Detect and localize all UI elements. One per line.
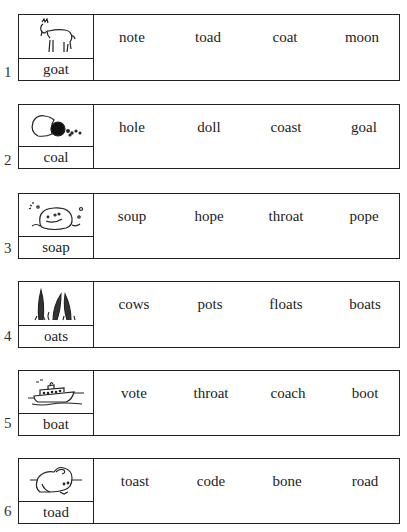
row-number: 1 bbox=[4, 64, 12, 81]
row-number: 2 bbox=[4, 152, 12, 169]
word-option[interactable]: soup bbox=[118, 208, 146, 225]
boat-icon bbox=[19, 371, 93, 414]
row-number: 6 bbox=[4, 503, 12, 520]
oats-icon bbox=[19, 282, 93, 325]
word-option[interactable]: boats bbox=[349, 296, 381, 313]
word-option[interactable]: code bbox=[197, 473, 225, 490]
picture-label: soap bbox=[19, 236, 93, 258]
row-number: 3 bbox=[4, 240, 12, 257]
picture-label: boat bbox=[19, 413, 93, 435]
word-option[interactable]: pots bbox=[197, 296, 222, 313]
word-option[interactable]: pope bbox=[349, 208, 378, 225]
word-option[interactable]: toast bbox=[121, 473, 149, 490]
picture-cell: toad bbox=[19, 459, 94, 523]
coal-sack-icon bbox=[19, 105, 93, 147]
word-option[interactable]: bone bbox=[272, 473, 301, 490]
word-option[interactable]: toad bbox=[195, 29, 221, 46]
picture-cell: oats bbox=[19, 282, 94, 347]
goat-icon bbox=[19, 15, 93, 58]
word-option[interactable]: road bbox=[352, 473, 379, 490]
word-option[interactable]: boot bbox=[352, 385, 379, 402]
picture-label: goat bbox=[19, 58, 93, 80]
word-option[interactable]: coach bbox=[271, 385, 306, 402]
picture-label: toad bbox=[19, 501, 93, 523]
row-number: 5 bbox=[4, 415, 12, 432]
word-option[interactable]: cows bbox=[119, 296, 150, 313]
word-option[interactable]: vote bbox=[121, 385, 147, 402]
word-option[interactable]: moon bbox=[345, 29, 379, 46]
picture-label: coal bbox=[19, 146, 93, 168]
picture-cell: coal bbox=[19, 105, 94, 168]
soap-icon bbox=[19, 194, 93, 237]
picture-cell: soap bbox=[19, 194, 94, 258]
row-number: 4 bbox=[4, 328, 12, 345]
word-option[interactable]: coat bbox=[273, 29, 298, 46]
exercise-box: boat vote throat coach boot bbox=[18, 370, 400, 436]
picture-cell: boat bbox=[19, 371, 94, 435]
word-option[interactable]: doll bbox=[197, 119, 220, 136]
word-option[interactable]: hole bbox=[119, 119, 145, 136]
picture-label: oats bbox=[19, 325, 93, 347]
exercise-box: goat note toad coat moon bbox=[18, 14, 400, 81]
exercise-box: soap soup hope throat pope bbox=[18, 193, 400, 259]
word-option[interactable]: throat bbox=[269, 208, 304, 225]
word-option[interactable]: throat bbox=[194, 385, 229, 402]
word-option[interactable]: note bbox=[119, 29, 145, 46]
picture-cell: goat bbox=[19, 15, 94, 80]
exercise-box: oats cows pots floats boats bbox=[18, 281, 400, 348]
word-option[interactable]: coast bbox=[271, 119, 302, 136]
exercise-box: toad toast code bone road bbox=[18, 458, 400, 524]
toad-icon bbox=[19, 459, 93, 502]
word-option[interactable]: goal bbox=[351, 119, 377, 136]
exercise-box: coal hole doll coast goal bbox=[18, 104, 400, 169]
word-option[interactable]: hope bbox=[194, 208, 223, 225]
word-option[interactable]: floats bbox=[269, 296, 302, 313]
